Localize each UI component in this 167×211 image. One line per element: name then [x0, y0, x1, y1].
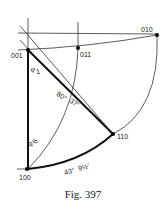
primitive-circle-arc [113, 35, 157, 134]
arc-43-label: 43° [63, 166, 75, 176]
horizontal-line-top [18, 33, 157, 34]
point-110 [111, 132, 115, 136]
diagonal-thin-upper [20, 26, 113, 134]
label-001: 001 [11, 52, 23, 59]
label-010: 010 [141, 26, 153, 33]
figure-caption: Fig. 397 [65, 188, 102, 200]
point-001 [26, 48, 30, 52]
point-011 [76, 46, 80, 50]
label-011: 011 [80, 51, 91, 58]
point-100 [25, 167, 29, 171]
point-010 [155, 33, 159, 37]
label-100: 100 [19, 174, 31, 181]
angle-80-label: 80° [55, 90, 68, 102]
phi1-subscript: 1 [35, 67, 40, 75]
thick-arc-100-110 [28, 134, 113, 169]
arc-9half-label: 9½′ [77, 162, 90, 172]
thick-line-001-110 [28, 50, 113, 134]
stereographic-projection-diagram: 001 011 010 110 100 φ 1 φ 6 80° 37′ 43° … [0, 0, 167, 211]
arc-through-011 [28, 48, 78, 169]
label-110: 110 [117, 133, 128, 140]
